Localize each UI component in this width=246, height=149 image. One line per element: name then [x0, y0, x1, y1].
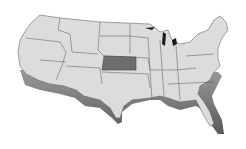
kansas-highlighted-state	[102, 56, 136, 70]
us-map	[0, 0, 246, 149]
map-land	[18, 15, 228, 126]
